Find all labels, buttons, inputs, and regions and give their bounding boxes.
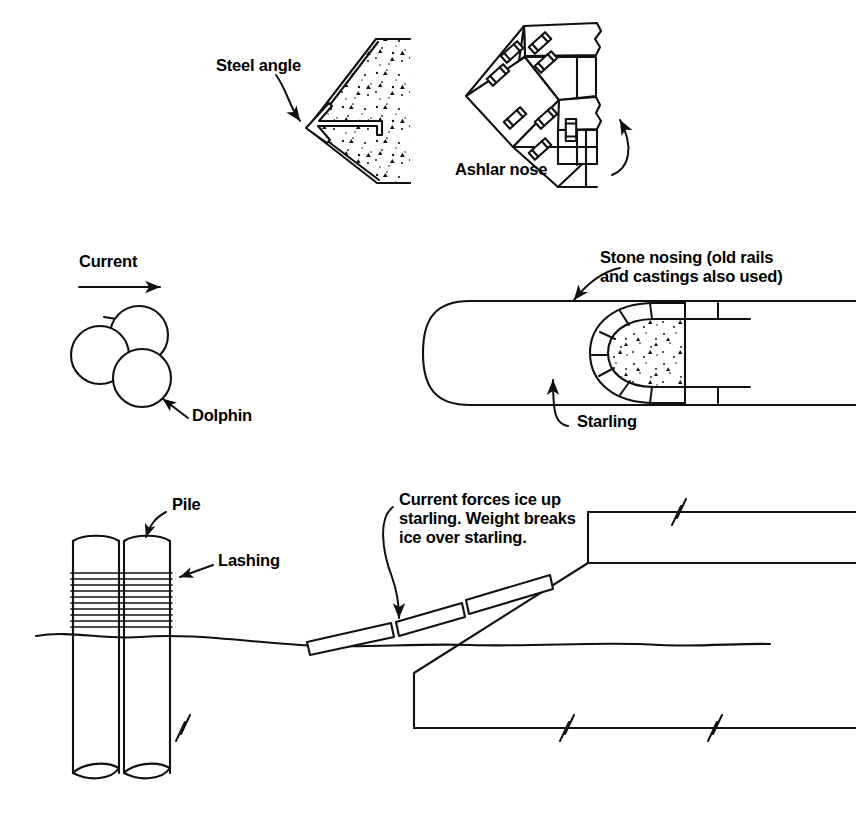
nosing-side-blocks bbox=[685, 303, 750, 403]
pile-lashing-bands bbox=[71, 573, 172, 627]
label-ashlar-nose: Ashlar nose bbox=[455, 160, 547, 179]
pile-left-bottom-cap bbox=[73, 768, 119, 778]
pile-leader bbox=[146, 512, 166, 537]
steel-angle-leader bbox=[276, 75, 300, 121]
ice-slab bbox=[396, 603, 465, 636]
label-pile: Pile bbox=[172, 495, 201, 514]
pile-left-top bbox=[73, 536, 119, 541]
starling-leader bbox=[553, 380, 568, 426]
pile-right-bottom-cap bbox=[124, 768, 170, 778]
ashlar-nose-leader bbox=[612, 120, 628, 175]
diagram-vector-layer bbox=[0, 0, 856, 813]
label-stone-nosing: Stone nosing (old rails and castings als… bbox=[600, 248, 782, 286]
label-current: Current bbox=[79, 252, 137, 271]
nosing-concrete-core bbox=[608, 319, 685, 387]
dolphin-leader bbox=[163, 399, 188, 418]
starling-rounded-end bbox=[423, 301, 470, 405]
ashlar-block-lower-right bbox=[558, 97, 601, 130]
ice-note-leader bbox=[383, 507, 399, 618]
panel-starling-nosing bbox=[423, 268, 856, 426]
ashlar-cramp bbox=[566, 119, 576, 141]
break-mark bbox=[176, 715, 190, 741]
diagram-canvas: Steel angle Ashlar nose Current Dolphin … bbox=[0, 0, 856, 813]
label-starling: Starling bbox=[577, 412, 637, 431]
label-steel-angle: Steel angle bbox=[216, 56, 301, 75]
pile-left-bottom bbox=[73, 764, 119, 773]
label-ice-note: Current forces ice up starling. Weight b… bbox=[399, 490, 576, 547]
lashing-leader bbox=[180, 565, 213, 577]
label-dolphin: Dolphin bbox=[192, 406, 252, 425]
label-lashing: Lashing bbox=[218, 551, 280, 570]
pile-right-bottom bbox=[124, 764, 170, 773]
ice-slab bbox=[307, 623, 394, 655]
panel-dolphin bbox=[71, 287, 188, 418]
